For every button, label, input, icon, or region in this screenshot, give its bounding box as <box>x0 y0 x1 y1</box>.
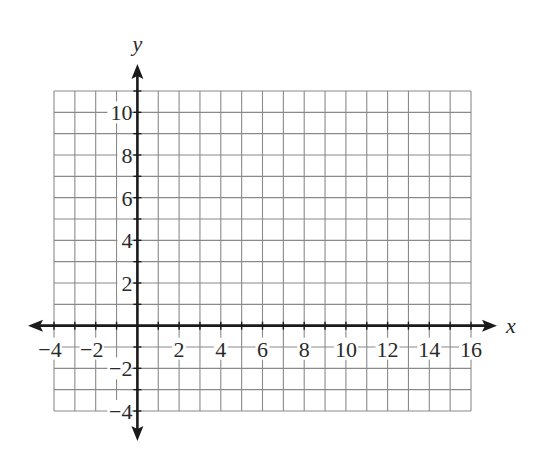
x-tick-label: 4 <box>215 337 226 362</box>
x-tick-label: 10 <box>335 337 357 362</box>
x-tick-label: 16 <box>460 337 482 362</box>
x-tick-label: 12 <box>377 337 399 362</box>
y-tick-label: 6 <box>121 186 132 211</box>
x-tick-label: −4 <box>38 337 61 362</box>
x-tick-label: 2 <box>174 337 185 362</box>
y-tick-label: 4 <box>121 228 132 253</box>
y-axis-label: y <box>131 31 143 56</box>
y-tick-label: 10 <box>110 100 132 125</box>
y-tick-label: −2 <box>109 356 132 381</box>
x-tick-label: 14 <box>418 337 440 362</box>
x-tick-label: 8 <box>299 337 310 362</box>
y-tick-label: 2 <box>121 271 132 296</box>
y-tick-label: −4 <box>109 399 132 424</box>
x-tick-label: −2 <box>80 337 103 362</box>
x-tick-label: 6 <box>257 337 268 362</box>
x-axis-label: x <box>505 313 516 338</box>
y-tick-label: 8 <box>121 143 132 168</box>
coordinate-plane: −4−2246810121416−4−2246810 x y <box>0 0 547 460</box>
